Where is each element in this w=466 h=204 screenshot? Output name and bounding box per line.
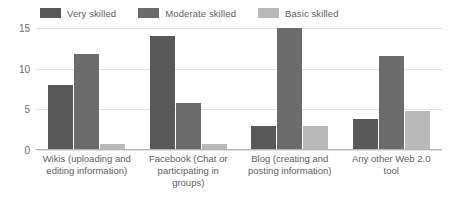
bar (74, 54, 99, 150)
bar-chart: Very skilled Moderate skilled Basic skil… (0, 0, 466, 204)
legend-label-moderate-skilled: Moderate skilled (165, 8, 236, 19)
x-axis-category-label: Any other Web 2.0 tool (341, 153, 443, 189)
bar-group (341, 28, 443, 150)
legend-label-very-skilled: Very skilled (67, 8, 116, 19)
x-axis-category-label: Wikis (uploading and editing information… (36, 153, 138, 189)
chart-legend: Very skilled Moderate skilled Basic skil… (40, 6, 361, 20)
y-axis-tick-label: 15 (19, 23, 30, 34)
legend-label-basic-skilled: Basic skilled (285, 8, 339, 19)
bar (303, 126, 328, 150)
bar (405, 111, 430, 150)
bar-group-bars (239, 28, 341, 150)
bar-group-bars (36, 28, 138, 150)
bar (277, 28, 302, 150)
x-axis-category-labels: Wikis (uploading and editing information… (36, 153, 442, 189)
bar (48, 85, 73, 150)
bar-group (239, 28, 341, 150)
legend-item-moderate-skilled: Moderate skilled (138, 8, 236, 19)
bar-group (138, 28, 240, 150)
y-axis-tick-label: 0 (24, 145, 30, 156)
bar (176, 103, 201, 150)
legend-swatch-moderate-skilled (138, 8, 159, 18)
bar (379, 56, 404, 150)
legend-item-very-skilled: Very skilled (40, 8, 116, 19)
gridline (36, 150, 442, 151)
bar-group-bars (341, 28, 443, 150)
x-axis-category-label: Facebook (Chat or participating in group… (138, 153, 240, 189)
bar (251, 126, 276, 150)
x-axis-line (36, 149, 442, 150)
bar-group-bars (138, 28, 240, 150)
y-axis-tick-label: 5 (24, 104, 30, 115)
plot-area: 051015 (36, 28, 442, 150)
y-axis-tick-label: 10 (19, 63, 30, 74)
bar-groups (36, 28, 442, 150)
bar-group (36, 28, 138, 150)
legend-swatch-very-skilled (40, 8, 61, 18)
bar (353, 119, 378, 150)
legend-swatch-basic-skilled (258, 8, 279, 18)
legend-item-basic-skilled: Basic skilled (258, 8, 339, 19)
x-axis-category-label: Blog (creating and posting information) (239, 153, 341, 189)
bar (150, 36, 175, 150)
